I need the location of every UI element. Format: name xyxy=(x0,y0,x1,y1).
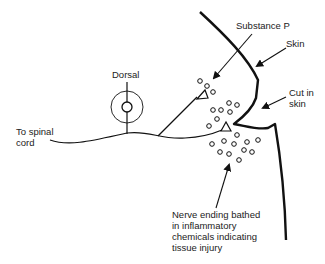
nerve-ending-arrow xyxy=(216,165,229,208)
pain-pathway-diagram: Substance P Skin Dorsal Cut in skin To s… xyxy=(0,0,325,264)
dorsal-label: Dorsal xyxy=(112,69,139,80)
dorsal-ganglion-icon xyxy=(111,82,143,134)
substance-p-molecules xyxy=(198,79,216,95)
cut-in-skin-label: Cut in skin xyxy=(289,87,314,109)
nerve-ending-label: Nerve ending bathed in inflammatory chem… xyxy=(172,209,260,253)
substance-p-arrow xyxy=(214,34,252,78)
skin-arrow xyxy=(257,48,286,66)
cut-in-skin-arrow xyxy=(263,97,286,108)
inflammatory-chemical-molecules xyxy=(207,101,261,163)
substance-p-label: Substance P xyxy=(236,20,290,31)
to-spinal-cord-label: To spinal cord xyxy=(16,126,54,148)
upper-nerve-ending-icon xyxy=(197,90,208,99)
skin-line xyxy=(200,12,286,240)
main-nerve-fiber xyxy=(50,130,222,143)
branch-nerve-fiber xyxy=(158,97,197,136)
skin-label: Skin xyxy=(286,38,304,49)
lower-nerve-ending-icon xyxy=(221,122,231,131)
